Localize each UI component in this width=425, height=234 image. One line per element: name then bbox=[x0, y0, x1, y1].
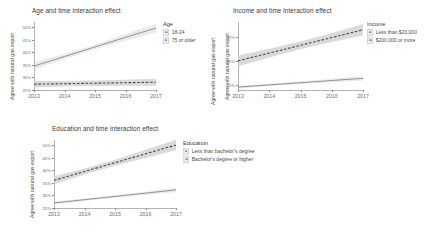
panel-title-age: Age and time interaction effect bbox=[32, 7, 121, 14]
series-line bbox=[238, 78, 363, 87]
panel-title-education: Education and time interaction effect bbox=[52, 125, 158, 132]
x-tick-mark bbox=[176, 208, 177, 210]
x-tick-mark bbox=[115, 208, 116, 210]
y-tick-label: 30% bbox=[38, 193, 51, 198]
x-tick-label: 2015 bbox=[89, 93, 101, 99]
legend-label-income-1: $200,000 or more bbox=[376, 37, 415, 43]
x-tick-label: 2016 bbox=[120, 93, 132, 99]
y-tick-label: 50% bbox=[222, 34, 235, 39]
legend-item-age-1[interactable]: 75 or older bbox=[163, 37, 196, 43]
x-tick-mark bbox=[146, 208, 147, 210]
y-tick-label: 40% bbox=[222, 58, 235, 63]
legend-education: Education Less than bachelor's degree Ba… bbox=[183, 140, 254, 164]
y-tick-label: 30% bbox=[18, 75, 31, 80]
y-axis-label-education: Agree with natural gas export bbox=[29, 151, 35, 218]
legend-item-education-1[interactable]: Bachelor's degree or higher bbox=[183, 156, 254, 162]
legend-swatch-dashed-icon bbox=[163, 37, 169, 43]
y-axis-label-income: Agree with natural gas export bbox=[224, 33, 230, 100]
x-tick-label: 2013 bbox=[28, 93, 40, 99]
legend-title-education: Education bbox=[183, 140, 254, 146]
series-layer-age bbox=[34, 22, 156, 90]
legend-item-age-0[interactable]: 18-24 bbox=[163, 29, 196, 35]
confidence-ribbon bbox=[54, 188, 176, 205]
y-tick-label: 25% bbox=[38, 206, 51, 211]
x-tick-mark bbox=[332, 90, 333, 92]
y-tick-label: 50% bbox=[18, 25, 31, 30]
y-tick-label: 40% bbox=[38, 168, 51, 173]
y-tick-label: 30% bbox=[222, 83, 235, 88]
x-tick-label: 2014 bbox=[79, 211, 91, 217]
series-line bbox=[54, 190, 176, 203]
legend-label-education-0: Less than bachelor's degree bbox=[192, 148, 255, 154]
legend-income: Income Less than $20,000 $200,000 or mor… bbox=[367, 21, 417, 45]
x-tick-label: 2017 bbox=[150, 93, 162, 99]
legend-swatch-dashed-icon bbox=[367, 29, 373, 35]
legend-item-income-0[interactable]: Less than $20,000 bbox=[367, 29, 417, 35]
x-tick-label: 2013 bbox=[232, 93, 244, 99]
y-tick-label: 50% bbox=[38, 143, 51, 148]
x-tick-mark bbox=[363, 90, 364, 92]
y-tick-label: 45% bbox=[18, 37, 31, 42]
legend-title-income: Income bbox=[367, 21, 417, 27]
x-tick-mark bbox=[65, 90, 66, 92]
x-tick-label: 2017 bbox=[170, 211, 182, 217]
series-layer-education bbox=[54, 140, 176, 208]
confidence-ribbon bbox=[238, 24, 363, 66]
legend-label-education-1: Bachelor's degree or higher bbox=[192, 156, 253, 162]
panel-age: Age and time interaction effect Agree wi… bbox=[0, 0, 215, 117]
legend-swatch-solid-icon bbox=[183, 156, 189, 162]
series-layer-income bbox=[238, 22, 363, 90]
legend-item-income-1[interactable]: $200,000 or more bbox=[367, 37, 417, 43]
x-tick-mark bbox=[301, 90, 302, 92]
x-tick-mark bbox=[269, 90, 270, 92]
x-tick-label: 2017 bbox=[357, 93, 369, 99]
x-tick-label: 2014 bbox=[263, 93, 275, 99]
x-tick-mark bbox=[126, 90, 127, 92]
panel-title-income: Income and time interaction effect bbox=[233, 7, 332, 14]
y-tick-label: 35% bbox=[18, 62, 31, 67]
legend-swatch-solid-icon bbox=[163, 29, 169, 35]
x-tick-label: 2015 bbox=[109, 211, 121, 217]
legend-label-age-0: 18-24 bbox=[172, 29, 185, 35]
x-tick-mark bbox=[95, 90, 96, 92]
legend-age: Age 18-24 75 or older bbox=[163, 21, 196, 45]
panel-income: Income and time interaction effect Agree… bbox=[215, 0, 425, 117]
y-tick-label: 45% bbox=[38, 155, 51, 160]
legend-label-age-1: 75 or older bbox=[172, 37, 196, 43]
series-line bbox=[34, 28, 156, 66]
x-tick-mark bbox=[238, 90, 239, 92]
confidence-ribbon bbox=[54, 140, 176, 185]
legend-swatch-solid-icon bbox=[367, 37, 373, 43]
x-tick-mark bbox=[54, 208, 55, 210]
y-tick-label: 40% bbox=[18, 50, 31, 55]
legend-swatch-dashed-icon bbox=[183, 148, 189, 154]
y-tick-label: 35% bbox=[38, 180, 51, 185]
x-tick-mark bbox=[34, 90, 35, 92]
y-tick-label: 25% bbox=[18, 88, 31, 93]
y-axis-label-age: Agree with natural gas export bbox=[9, 33, 15, 100]
x-tick-label: 2013 bbox=[48, 211, 60, 217]
confidence-ribbon bbox=[238, 76, 363, 89]
x-tick-mark bbox=[156, 90, 157, 92]
legend-label-income-0: Less than $20,000 bbox=[376, 29, 417, 35]
panel-education: Education and time interaction effect Ag… bbox=[20, 117, 235, 234]
x-tick-label: 2016 bbox=[326, 93, 338, 99]
x-tick-label: 2014 bbox=[59, 93, 71, 99]
x-tick-label: 2016 bbox=[140, 211, 152, 217]
x-tick-mark bbox=[85, 208, 86, 210]
legend-item-education-0[interactable]: Less than bachelor's degree bbox=[183, 148, 254, 154]
x-tick-label: 2015 bbox=[295, 93, 307, 99]
legend-title-age: Age bbox=[163, 21, 196, 27]
